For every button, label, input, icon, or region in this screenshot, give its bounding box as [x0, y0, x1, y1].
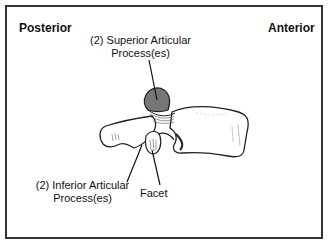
vertebral-body [170, 107, 248, 157]
facet-pointer-line [152, 150, 160, 185]
vertebra-illustration [0, 0, 330, 247]
inferior-pointer-line [127, 145, 142, 182]
inferior-articular-process [145, 132, 174, 155]
